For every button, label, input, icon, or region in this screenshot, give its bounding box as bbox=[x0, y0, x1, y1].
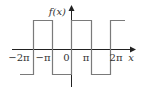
square-wave-curve bbox=[20, 21, 125, 75]
y-axis-label: f(x) bbox=[48, 6, 66, 17]
tick-label-neg-2pi: −2π bbox=[8, 52, 30, 63]
tick-label-2pi: 2π bbox=[110, 52, 123, 63]
tick-label-neg-pi: −π bbox=[36, 52, 51, 63]
x-axis-label: x bbox=[128, 52, 134, 63]
square-wave-diagram: f(x) −2π −π 0 π 2π x bbox=[0, 0, 142, 91]
y-axis-arrow-icon bbox=[69, 5, 75, 11]
tick-label-zero: 0 bbox=[63, 52, 69, 63]
tick-label-pi: π bbox=[83, 52, 90, 63]
